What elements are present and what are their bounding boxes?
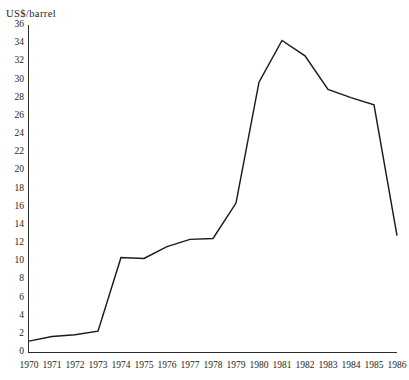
x-tick-label: 1986 (388, 360, 407, 370)
x-tick-label: 1984 (342, 360, 361, 370)
x-tick-label: 1974 (112, 360, 131, 370)
x-tick-label: 1985 (365, 360, 384, 370)
x-tick-label: 1970 (20, 360, 39, 370)
x-tick-label: 1976 (158, 360, 177, 370)
x-tick-label: 1977 (181, 360, 200, 370)
x-tick-label: 1975 (135, 360, 154, 370)
x-tick-label: 1982 (296, 360, 315, 370)
x-tick-label: 1983 (319, 360, 338, 370)
oil-price-line-chart: US$/barrel 02468101214161820222426283032… (0, 0, 409, 380)
x-tick-label: 1981 (273, 360, 292, 370)
x-tick-label: 1979 (227, 360, 246, 370)
x-tick-label: 1973 (89, 360, 108, 370)
x-axis-tick-labels: 1970197119721973197419751976197719781979… (0, 0, 409, 380)
x-tick-label: 1971 (43, 360, 62, 370)
x-tick-label: 1978 (204, 360, 223, 370)
x-tick-label: 1980 (250, 360, 269, 370)
x-tick-label: 1972 (66, 360, 85, 370)
